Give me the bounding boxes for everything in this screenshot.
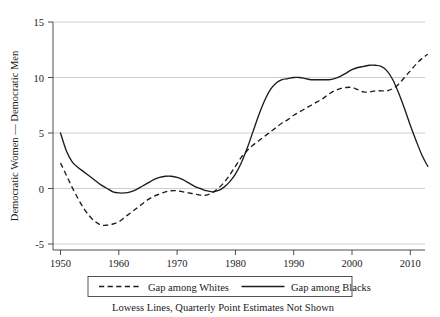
plot-series: [61, 54, 428, 225]
chart-caption: Lowess Lines, Quarterly Point Estimates …: [112, 302, 335, 313]
y-gridlines: [53, 22, 425, 244]
y-tick-label-15: 15: [34, 17, 45, 28]
x-tick-label-1960: 1960: [108, 258, 129, 269]
series-line-gap-among-whites: [61, 54, 428, 225]
x-tick-label-1970: 1970: [167, 258, 188, 269]
x-tick-labels: 1950 1960 1970 1980 1990 2000 2010: [50, 258, 421, 269]
y-tick-label-5: 5: [39, 128, 44, 139]
x-tick-label-2010: 2010: [400, 258, 421, 269]
x-tick-label-1990: 1990: [283, 258, 304, 269]
series-line-gap-among-blacks: [61, 65, 428, 193]
x-tick-label-1980: 1980: [225, 258, 246, 269]
legend: Gap among Whites Gap among Blacks: [88, 277, 371, 297]
y-tick-marks: [48, 22, 53, 244]
chart-figure: 15 10 5 0 -5 1950 1960 1970 1980 1990 20…: [0, 0, 440, 317]
x-tick-label-2000: 2000: [342, 258, 363, 269]
y-axis-title: Democratic Women — Democratic Men: [9, 50, 20, 221]
y-tick-label-0: 0: [39, 184, 44, 195]
axes: [53, 22, 425, 250]
x-tick-marks: [61, 250, 411, 255]
chart-svg: 15 10 5 0 -5 1950 1960 1970 1980 1990 20…: [0, 0, 440, 317]
y-tick-label-neg5: -5: [35, 239, 44, 250]
y-tick-labels: 15 10 5 0 -5: [34, 17, 45, 250]
legend-label-blacks: Gap among Blacks: [291, 282, 371, 293]
y-tick-label-10: 10: [34, 73, 45, 84]
x-tick-label-1950: 1950: [50, 258, 71, 269]
legend-label-whites: Gap among Whites: [148, 282, 229, 293]
